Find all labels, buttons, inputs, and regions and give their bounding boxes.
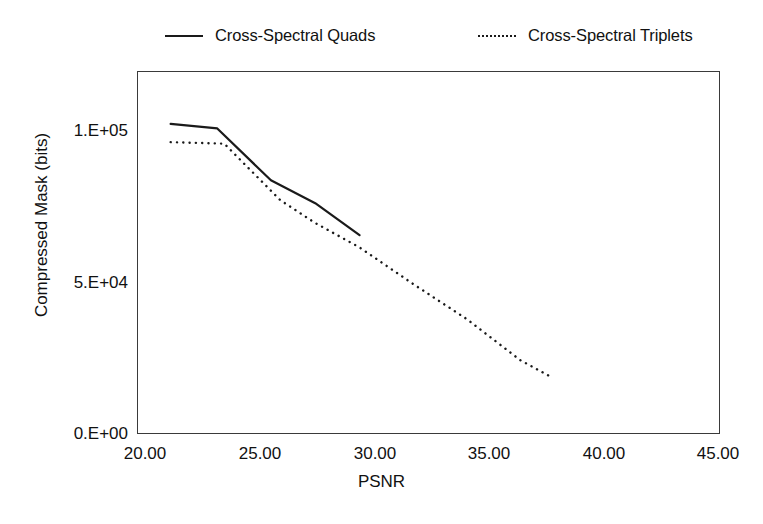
- legend-solid-line-icon: [165, 28, 203, 42]
- y-tick-label: 5.E+04: [2, 274, 128, 291]
- x-tick-label: 20.00: [85, 444, 205, 464]
- y-tick-label: 0.E+00: [2, 425, 128, 442]
- x-tick-label: 30.00: [315, 444, 435, 464]
- x-tick-label: 25.00: [200, 444, 320, 464]
- y-tick-label: 1.E+05: [2, 122, 128, 139]
- x-tick-label: 45.00: [658, 444, 763, 464]
- series-line: [171, 124, 360, 235]
- x-tick-label: 40.00: [544, 444, 664, 464]
- plot-canvas: [138, 72, 721, 435]
- x-axis-title: PSNR: [0, 472, 763, 492]
- y-axis-title: Compressed Mask (bits): [32, 80, 52, 370]
- series-line: [171, 142, 549, 375]
- legend-item-label: Cross-Spectral Quads: [215, 26, 375, 44]
- legend-item-cross-spectral-quads: Cross-Spectral Quads: [165, 18, 375, 52]
- legend-item-label: Cross-Spectral Triplets: [528, 26, 693, 44]
- plot-area: [137, 71, 720, 434]
- chart-figure: Cross-Spectral Quads Cross-Spectral Trip…: [0, 0, 763, 524]
- legend-dotted-line-icon: [478, 28, 516, 42]
- legend-item-cross-spectral-triplets: Cross-Spectral Triplets: [478, 18, 693, 52]
- x-tick-label: 35.00: [429, 444, 549, 464]
- x-axis-tick-labels: 20.00 25.00 30.00 35.00 40.00 45.00: [0, 444, 763, 470]
